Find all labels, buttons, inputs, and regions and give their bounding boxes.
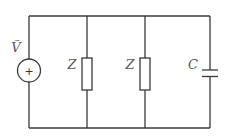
source-label: Ṽ <box>11 40 22 55</box>
c-label: C <box>188 57 198 72</box>
impedance-z2-icon <box>140 58 150 90</box>
source-plus-sign: + <box>24 65 33 78</box>
circuit-diagram: + Ṽ Z Z C <box>0 0 230 137</box>
z2-label: Z <box>124 57 135 72</box>
impedance-z1-icon <box>82 58 92 90</box>
z1-label: Z <box>66 57 77 72</box>
